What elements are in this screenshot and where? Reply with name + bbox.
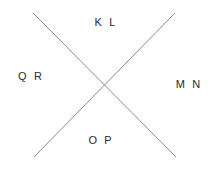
label-right: M N bbox=[176, 79, 202, 90]
label-bottom: O P bbox=[88, 135, 113, 146]
diagram-canvas: K L Q R M N O P bbox=[0, 0, 215, 171]
label-top: K L bbox=[95, 17, 118, 28]
label-left: Q R bbox=[18, 71, 44, 82]
